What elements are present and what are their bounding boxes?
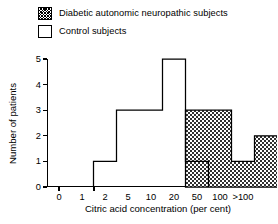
y-axis-tick-label: 2	[36, 131, 41, 140]
histogram-steps	[47, 59, 269, 187]
x-axis-tick-label: >100	[233, 192, 254, 202]
y-axis-tick-label: 3	[36, 106, 41, 115]
legend: Diabetic autonomic neuropathic subjects …	[38, 5, 270, 40]
x-axis-tick	[58, 187, 59, 191]
x-axis-tick-label: 100	[212, 192, 228, 202]
x-axis-tick-label: 0	[56, 192, 61, 202]
y-axis-tick-label: 5	[36, 55, 41, 64]
x-axis-title: Citric acid concentration (per cent)	[47, 203, 269, 214]
x-axis-tick-label: 20	[169, 192, 179, 202]
y-axis-title-text: Number of patients	[7, 82, 18, 163]
y-axis-tick-label: 4	[36, 80, 41, 89]
x-axis-tick-label: 50	[192, 192, 202, 202]
legend-item-label: Diabetic autonomic neuropathic subjects	[59, 8, 228, 19]
diabetic-bars	[186, 110, 278, 187]
x-axis-tick	[93, 187, 94, 191]
open-swatch-icon	[38, 25, 52, 38]
x-axis-tick-label: 2	[102, 192, 107, 202]
y-axis-tick-label: 0	[36, 183, 41, 192]
hatched-swatch-icon	[38, 7, 52, 20]
x-axis-tick-label: 5	[125, 192, 130, 202]
y-axis-title: Number of patients	[6, 59, 19, 187]
legend-item: Control subjects	[38, 23, 270, 40]
figure: Diabetic autonomic neuropathic subjects …	[0, 0, 277, 224]
x-axis-tick-label: 10	[146, 192, 156, 202]
legend-item: Diabetic autonomic neuropathic subjects	[38, 5, 270, 22]
y-axis-tick-label: 1	[36, 157, 41, 166]
legend-item-label: Control subjects	[59, 26, 126, 37]
plot-area: 012345 0125102050100>100	[47, 59, 269, 187]
x-axis-tick-label: 1	[79, 192, 84, 202]
